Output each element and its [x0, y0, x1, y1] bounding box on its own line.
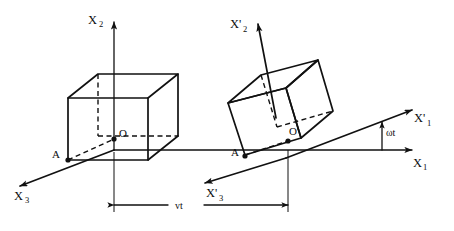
- axis-x3-prime-line: [205, 158, 286, 183]
- cube-rest-right-bottom-edge: [148, 136, 178, 160]
- cube-rest: [65, 74, 178, 163]
- svg-text:X': X': [230, 17, 241, 31]
- physics-diagram-figure: X 2 X 1 X 3 X' 2 X' 1 X' 3 O: [0, 0, 454, 231]
- cube-moving: [228, 60, 333, 159]
- svg-text:X: X: [14, 189, 23, 203]
- svg-text:2: 2: [99, 19, 103, 29]
- svg-text:2: 2: [243, 24, 247, 34]
- label-corner-a-prime: A: [231, 146, 239, 158]
- svg-text:X': X': [414, 111, 425, 125]
- cube-moving-front-face: [228, 88, 301, 155]
- svg-text:1: 1: [423, 162, 427, 172]
- cube-rest-top-face: [68, 74, 178, 98]
- corner-dot-a-prime: [242, 153, 247, 158]
- label-origin-o-prime: O': [289, 125, 299, 137]
- cube-rest-hidden-diagonal: [68, 139, 114, 160]
- label-x2: X 2: [88, 13, 103, 29]
- svg-text:X: X: [413, 156, 422, 170]
- label-x2-prime: X' 2: [230, 17, 247, 34]
- label-translation-vt: vt: [175, 200, 183, 211]
- label-x3-prime: X' 3: [206, 186, 223, 203]
- origin-dot-o-prime: [285, 138, 290, 143]
- svg-text:3: 3: [219, 193, 223, 203]
- axis-x3-prime-group: [205, 158, 286, 183]
- svg-text:3: 3: [25, 195, 29, 205]
- svg-text:1: 1: [427, 118, 431, 128]
- label-rotation-omega-t: ωt: [386, 127, 396, 138]
- label-corner-a: A: [52, 148, 60, 160]
- corner-dot-a: [65, 157, 70, 162]
- svg-text:X: X: [88, 13, 97, 27]
- diagram-canvas: X 2 X 1 X 3 X' 2 X' 1 X' 3 O: [0, 0, 454, 231]
- cube-rest-front-face: [68, 98, 148, 160]
- label-x1: X 1: [413, 156, 427, 172]
- label-x3: X 3: [14, 189, 29, 205]
- origin-dot-o: [111, 136, 116, 141]
- cube-moving-top-face: [228, 60, 318, 103]
- axis-x3-line: [20, 150, 114, 186]
- label-x1-prime: X' 1: [414, 111, 431, 128]
- label-origin-o: O: [119, 127, 127, 139]
- svg-text:X': X': [206, 186, 217, 200]
- axis-x3-group: [20, 150, 114, 186]
